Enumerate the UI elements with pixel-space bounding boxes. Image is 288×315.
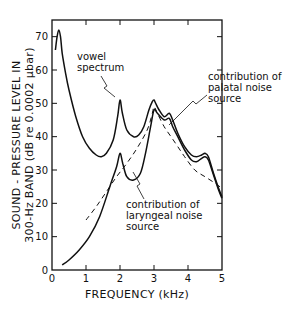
- annotation-vowel-line1: vowel: [77, 51, 106, 62]
- x-axis-ticks: 012345: [49, 20, 225, 284]
- chart: 012345 010203040506070 FREQUENCY (kHz) S…: [0, 0, 288, 315]
- annotation-palatal-line1: contribution of: [208, 71, 282, 82]
- annotation-vowel-spectrum: vowel spectrum: [77, 51, 124, 97]
- x-tick-label: 3: [151, 273, 157, 284]
- y-tick-label: 40: [35, 131, 48, 142]
- y-axis-ticks: 010203040506070: [35, 31, 222, 275]
- y-axis-title-line2: 300-Hz BAND (dB re 0.0002 μbar): [23, 47, 36, 242]
- annotation-palatal-line3: source: [208, 93, 241, 104]
- y-tick-label: 10: [35, 231, 48, 242]
- x-tick-label: 0: [49, 273, 55, 284]
- x-tick-label: 5: [219, 273, 225, 284]
- x-tick-label: 2: [117, 273, 123, 284]
- annotation-palatal-line2: palatal noise: [208, 82, 272, 93]
- annotation-laryngeal: contribution of laryngeal noise source: [126, 172, 202, 232]
- x-axis-title: FREQUENCY (kHz): [85, 288, 189, 301]
- series-line-contribution-of-laryngeal-noise-source: [62, 109, 222, 265]
- annotation-vowel-pointer: [101, 76, 115, 97]
- y-tick-label: 30: [35, 165, 48, 176]
- y-tick-label: 50: [35, 98, 48, 109]
- annotation-laryngeal-line3: source: [126, 221, 159, 232]
- y-tick-label: 70: [35, 31, 48, 42]
- annotation-palatal: contribution of palatal noise source: [169, 71, 282, 125]
- annotation-laryngeal-line1: contribution of: [126, 199, 200, 210]
- x-tick-label: 1: [83, 273, 89, 284]
- annotation-laryngeal-line2: laryngeal noise: [126, 210, 202, 221]
- x-tick-label: 4: [185, 273, 191, 284]
- annotation-palatal-pointer: [169, 95, 207, 125]
- y-tick-label: 60: [35, 65, 48, 76]
- y-tick-label: 20: [35, 198, 48, 209]
- annotation-vowel-line2: spectrum: [77, 62, 124, 73]
- y-tick-label: 0: [42, 265, 48, 276]
- y-axis-title-line1: SOUND - PRESSURE LEVEL IN: [10, 61, 23, 230]
